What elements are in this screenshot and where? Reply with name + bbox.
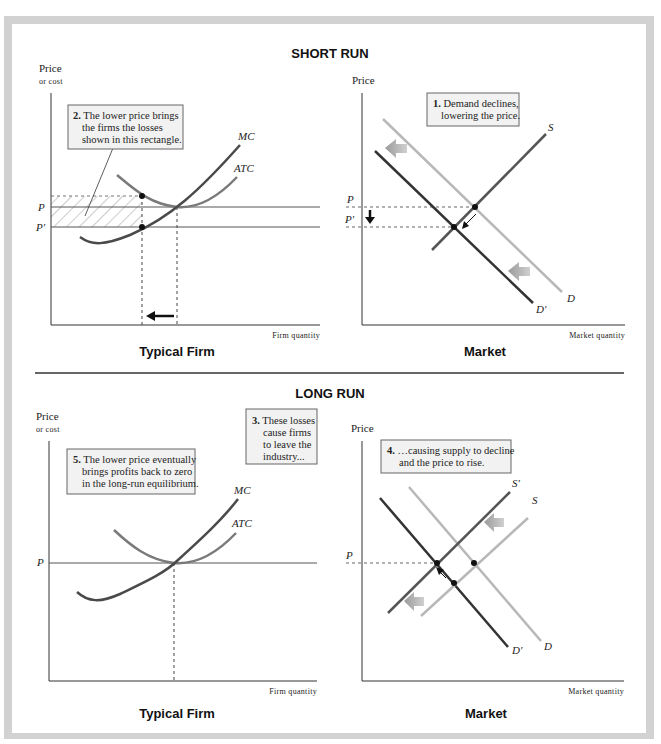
- lr-market-y-axis-label: Price: [351, 422, 374, 434]
- svg-text:lowering the price.: lowering the price.: [441, 110, 520, 121]
- lr-market-label-s: S: [532, 494, 538, 506]
- sr-firm-x-axis-label: Firm quantity: [272, 331, 320, 340]
- svg-text:to leave the: to leave the: [263, 439, 312, 450]
- lr-market-label-p: P: [345, 549, 353, 561]
- lr-market-panel-title: Market: [465, 706, 508, 721]
- new-equilibrium-point: [451, 224, 457, 230]
- svg-text:3. These losses: 3. These losses: [252, 415, 315, 426]
- svg-text:in the long-run equilibrium.: in the long-run equilibrium.: [82, 478, 199, 489]
- atc-curve: [114, 530, 236, 563]
- short-run-firm-graph: Price or cost P P′ MC ATC 2. The lowe: [35, 62, 320, 359]
- long-run-market-graph: Price P S′ S D D′ 4. …causing supply to …: [345, 422, 624, 721]
- lr-market-x-axis-label: Market quantity: [568, 687, 624, 696]
- svg-text:1. Demand declines,: 1. Demand declines,: [433, 98, 519, 109]
- sr-market-x-axis-label: Market quantity: [569, 331, 625, 340]
- short-run-equilibrium-point: [451, 580, 457, 586]
- lr-firm-label-p: P: [36, 556, 44, 568]
- lr-firm-y-axis-label-2: or cost: [36, 425, 60, 434]
- sr-market-label-d: D: [566, 292, 575, 304]
- note-5: 5. The lower price eventually brings pro…: [67, 449, 199, 494]
- mc-point: [139, 224, 145, 230]
- lr-market-label-d-prime: D′: [511, 644, 523, 656]
- new-equilibrium-point: [434, 560, 440, 566]
- arrow-down-icon: [365, 217, 375, 224]
- sr-firm-label-atc: ATC: [233, 162, 254, 174]
- short-run-market-graph: Price P P′ S D D′ 1. Demand declines,: [344, 74, 625, 359]
- svg-text:the firms the losses: the firms the losses: [82, 122, 163, 133]
- svg-text:shown in this rectangle.: shown in this rectangle.: [82, 134, 182, 145]
- note-1: 1. Demand declines, lowering the price.: [427, 93, 520, 126]
- lr-market-label-s-prime: S′: [512, 477, 521, 489]
- supply-curve-s: [421, 518, 528, 616]
- atc-point: [139, 193, 145, 199]
- diagram-canvas: SHORT RUN Price or cost P P′ MC ATC: [0, 0, 661, 744]
- lr-market-label-d: D: [543, 640, 552, 652]
- lr-firm-label-mc: MC: [233, 484, 251, 496]
- demand-shift-arrow-upper: [385, 139, 407, 158]
- supply-curve-s: [432, 134, 546, 250]
- sr-firm-panel-title: Typical Firm: [139, 344, 215, 359]
- sr-market-label-d-prime: D′: [535, 303, 547, 315]
- sr-market-y-axis-label: Price: [352, 74, 375, 86]
- arrow-left-icon: [146, 311, 155, 321]
- short-run-title: SHORT RUN: [291, 46, 368, 61]
- sr-market-panel-title: Market: [464, 344, 507, 359]
- long-run-title: LONG RUN: [295, 386, 364, 401]
- note-3: 3. These losses cause firms to leave the…: [246, 409, 317, 464]
- loss-rectangle: [51, 196, 142, 227]
- sr-market-label-p-prime: P′: [344, 213, 355, 225]
- lr-firm-x-axis-label: Firm quantity: [269, 687, 317, 696]
- sr-firm-y-axis-label-2: or cost: [39, 77, 63, 86]
- sr-firm-y-axis-label: Price: [39, 62, 62, 74]
- note-4: 4. …causing supply to decline and the pr…: [381, 440, 515, 473]
- sr-market-label-s: S: [548, 121, 554, 133]
- sr-firm-label-p-prime: P′: [35, 221, 46, 233]
- old-equilibrium-point: [472, 204, 478, 210]
- lr-firm-y-axis-label: Price: [36, 410, 59, 422]
- lr-firm-label-atc: ATC: [231, 517, 252, 529]
- lr-firm-panel-title: Typical Firm: [139, 706, 215, 721]
- svg-text:and the price to rise.: and the price to rise.: [399, 457, 484, 468]
- svg-text:4. …causing supply to decline: 4. …causing supply to decline: [387, 445, 515, 456]
- sr-market-label-p: P: [346, 193, 354, 205]
- intermediate-point: [471, 560, 477, 566]
- svg-text:industry...: industry...: [263, 451, 305, 462]
- mc-curve: [77, 499, 238, 600]
- svg-text:cause firms: cause firms: [263, 427, 311, 438]
- demand-shift-arrow-lower: [508, 262, 530, 281]
- svg-text:brings profits back to zero: brings profits back to zero: [82, 466, 192, 477]
- sr-firm-label-p: P: [37, 201, 45, 213]
- svg-text:2. The lower price brings: 2. The lower price brings: [73, 110, 179, 121]
- svg-text:5. The lower price eventually: 5. The lower price eventually: [73, 454, 197, 465]
- sr-firm-label-mc: MC: [237, 130, 255, 142]
